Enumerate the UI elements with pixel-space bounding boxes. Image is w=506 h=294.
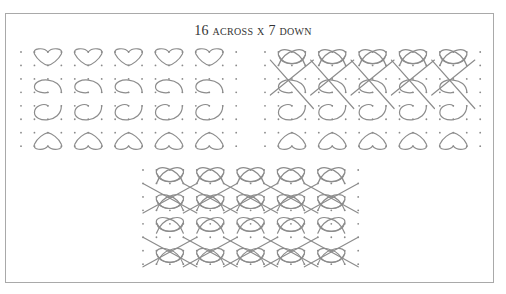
kolam-diagram (0, 0, 506, 294)
panel-bottom (142, 168, 359, 267)
panel-right (264, 50, 481, 150)
panel-left (20, 49, 237, 150)
